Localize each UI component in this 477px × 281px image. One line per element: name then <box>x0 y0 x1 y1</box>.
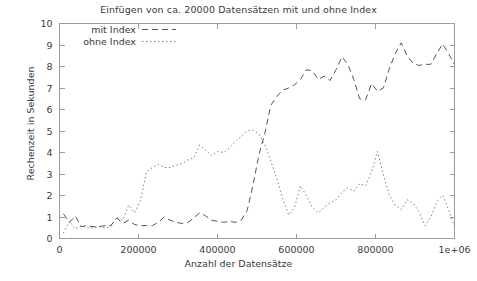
axis-ticks <box>60 24 455 239</box>
x-tick-label: 200000 <box>120 244 156 255</box>
y-tick-label: 0 <box>46 233 52 244</box>
axes-group <box>60 24 455 239</box>
x-tick-label: 0 <box>56 244 62 255</box>
y-axis-label: Rechenzeit in Sekunden <box>25 34 36 214</box>
chart-container: Einfügen von ca. 20000 Datensätzen mit u… <box>0 0 477 281</box>
y-tick-label: 4 <box>46 147 52 158</box>
legend-label-1: mit Index <box>91 24 136 35</box>
y-tick-label: 2 <box>46 190 52 201</box>
plot-border <box>60 24 455 239</box>
x-tick-label: 1e+06 <box>439 244 471 255</box>
chart-legend: mit Indexohne Index <box>83 24 176 47</box>
y-tick-label: 1 <box>46 212 52 223</box>
y-tick-label: 6 <box>46 104 52 115</box>
x-axis-label: Anzahl der Datensätze <box>0 258 477 269</box>
series-line-2 <box>63 130 454 233</box>
data-series-group <box>63 43 454 233</box>
y-tick-label: 3 <box>46 169 52 180</box>
y-tick-label: 9 <box>46 40 52 51</box>
x-tick-label: 400000 <box>199 244 235 255</box>
y-axis-tick-labels: 012345678910 <box>40 18 52 244</box>
y-tick-label: 5 <box>46 126 52 137</box>
plot-area: 012345678910 02000004000006000008000001e… <box>0 0 477 281</box>
x-axis-tick-labels: 02000004000006000008000001e+06 <box>56 244 470 255</box>
y-tick-label: 7 <box>46 83 52 94</box>
legend-label-2: ohne Index <box>83 36 136 47</box>
x-tick-label: 800000 <box>357 244 393 255</box>
y-tick-label: 8 <box>46 61 52 72</box>
y-tick-label: 10 <box>40 18 52 29</box>
x-tick-label: 600000 <box>278 244 314 255</box>
